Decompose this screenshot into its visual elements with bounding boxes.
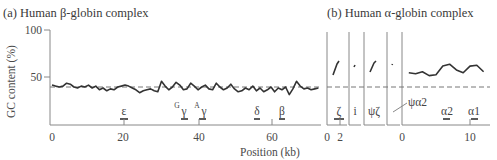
gc-segment-i (354, 65, 355, 67)
gc-content-figure: (a) Human β-globin complex GC content (%… (0, 0, 497, 160)
x-tick-b-0: 0 (399, 131, 405, 143)
segment-psi-alpha2 (387, 32, 400, 125)
svg-text:γ: γ (180, 105, 186, 118)
x-tick-b-2: 2 (337, 131, 343, 143)
svg-text:ε: ε (122, 105, 127, 117)
gene-alpha2: α2 (441, 105, 453, 119)
panel-b-title: (b) Human α-globin complex (327, 6, 474, 20)
x-tick-0: 0 (49, 131, 55, 143)
panel-b-alpha-globin: (b) Human α-globin complex ζ i ψζ ψα2 α2 (324, 6, 490, 143)
svg-text:ζ: ζ (337, 105, 342, 118)
svg-text:δ: δ (254, 105, 259, 117)
svg-text:γ: γ (200, 105, 206, 118)
y-tick-100: 100 (25, 24, 43, 36)
gene-beta: β (272, 105, 285, 125)
x-tick-20: 20 (117, 131, 129, 143)
x-tick-b-0a: 0 (324, 131, 330, 143)
gc-curve-beta (52, 81, 318, 94)
gene-i: i (353, 105, 356, 117)
svg-text:ψα2: ψα2 (408, 96, 427, 109)
panel-a-beta-globin: (a) Human β-globin complex GC content (%… (3, 6, 321, 159)
svg-text:G: G (174, 101, 180, 110)
gc-segment-psi-zeta (370, 61, 376, 72)
panel-a-title: (a) Human β-globin complex (3, 6, 149, 20)
x-tick-40: 40 (193, 131, 205, 143)
svg-text:α1: α1 (468, 105, 480, 117)
x-tick-60: 60 (266, 131, 278, 143)
x-axis-label: Position (kb) (240, 146, 300, 159)
svg-text:A: A (194, 101, 200, 110)
gene-a-gamma: A γ (194, 101, 206, 125)
gc-segment-zeta (333, 61, 339, 75)
svg-text:β: β (279, 105, 285, 118)
gc-segment-psi-alpha2 (392, 64, 393, 65)
y-axis-label: GC content (%) (5, 45, 18, 118)
gc-curve-alpha (409, 64, 484, 75)
gene-psi-alpha2: ψα2 (393, 96, 427, 112)
gene-zeta: ζ (334, 105, 344, 125)
gene-delta: δ (254, 105, 260, 119)
gene-alpha1: α1 (468, 105, 480, 125)
gene-g-gamma: G γ (174, 101, 188, 119)
y-tick-50: 50 (31, 71, 43, 83)
x-tick-b-10: 10 (464, 131, 476, 143)
gene-psi-zeta: ψζ (368, 105, 380, 118)
svg-text:α2: α2 (441, 105, 453, 117)
gene-epsilon: ε (120, 105, 128, 125)
